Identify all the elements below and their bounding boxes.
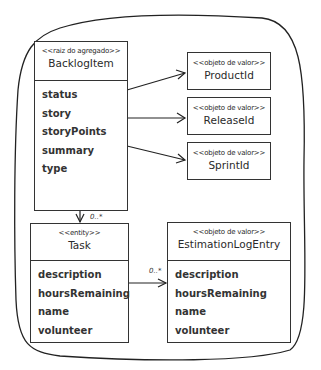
attribute: volunteer (38, 322, 128, 341)
estimation-log-entry-class: <<objeto de valor>> EstimationLogEntry d… (167, 222, 291, 343)
attribute-list: status story storyPoints summary type (35, 81, 127, 179)
attribute: storyPoints (42, 123, 127, 142)
class-name: SprintId (188, 158, 270, 172)
class-header: <<entity>> Task (31, 224, 128, 261)
attribute: name (175, 303, 290, 322)
attribute: status (42, 86, 127, 105)
release-id-class: <<objeto de valor>> ReleaseId (187, 97, 271, 135)
stereotype: <<objeto de valor>> (188, 53, 270, 68)
sprint-id-class: <<objeto de valor>> SprintId (187, 142, 271, 180)
attribute-list: description hoursRemaining name voluntee… (31, 261, 128, 340)
class-name: ReleaseId (188, 113, 270, 127)
class-name: BacklogItem (35, 56, 127, 70)
class-name: Task (31, 238, 128, 252)
stereotype: <<raiz do agregado>> (35, 42, 127, 56)
estimation-multiplicity: 0..* (149, 267, 161, 275)
stereotype: <<objeto de valor>> (188, 143, 270, 158)
attribute: description (38, 266, 128, 285)
attribute: description (175, 266, 290, 285)
class-name: EstimationLogEntry (168, 237, 290, 251)
task-multiplicity: 0..* (90, 213, 102, 221)
attribute: volunteer (175, 322, 290, 341)
attribute: type (42, 160, 127, 179)
task-class: <<entity>> Task description hoursRemaini… (30, 223, 129, 343)
attribute: name (38, 303, 128, 322)
attribute-list: description hoursRemaining name voluntee… (168, 261, 290, 340)
stereotype: <<entity>> (31, 224, 128, 238)
class-header: <<objeto de valor>> EstimationLogEntry (168, 223, 290, 261)
stereotype: <<objeto de valor>> (188, 98, 270, 113)
backlog-item-class: <<raiz do agregado>> BacklogItem status … (34, 41, 128, 211)
attribute: hoursRemaining (175, 285, 290, 304)
product-id-class: <<objeto de valor>> ProductId (187, 52, 271, 90)
attribute: hoursRemaining (38, 285, 128, 304)
stereotype: <<objeto de valor>> (168, 223, 290, 237)
attribute: story (42, 105, 127, 124)
class-name: ProductId (188, 68, 270, 82)
attribute: summary (42, 142, 127, 161)
class-header: <<raiz do agregado>> BacklogItem (35, 42, 127, 81)
